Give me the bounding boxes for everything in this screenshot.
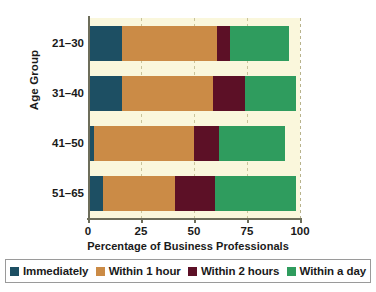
legend-label: Within 1 hour (109, 265, 181, 277)
x-axis-tick (194, 218, 196, 223)
x-tick-label-75: 75 (241, 225, 254, 237)
bar-segment (88, 76, 122, 111)
bar-segment (194, 126, 219, 161)
x-axis-tick (247, 218, 249, 223)
bar-segment (122, 76, 213, 111)
legend-item-within-2-hours[interactable]: Within 2 hours (188, 265, 279, 277)
y-tick-label-41-50: 41–50 (38, 137, 84, 149)
bar-segment (217, 26, 230, 61)
bar-segment (175, 176, 215, 211)
x-axis-tick (141, 218, 143, 223)
legend-item-within-1-hour[interactable]: Within 1 hour (96, 265, 181, 277)
bar-segment (230, 26, 289, 61)
bar-segment (215, 176, 296, 211)
y-axis-tick-labels: 21–3031–4041–5051–65 (38, 18, 84, 218)
legend-swatch-icon (96, 267, 105, 276)
x-tick-label-50: 50 (188, 225, 201, 237)
bar-31-40 (88, 76, 300, 111)
legend-label: Within a day (300, 265, 366, 277)
x-tick-label-25: 25 (135, 225, 148, 237)
plot-area (88, 18, 300, 218)
bar-41-50 (88, 126, 300, 161)
bar-segment (103, 176, 175, 211)
bar-segment (88, 176, 103, 211)
y-tick-label-31-40: 31–40 (38, 87, 84, 99)
x-tick-label-100: 100 (290, 225, 309, 237)
bar-51-65 (88, 176, 300, 211)
legend-item-within-a-day[interactable]: Within a day (287, 265, 366, 277)
bar-segment (213, 76, 245, 111)
bar-segment (245, 76, 296, 111)
x-tick-label-0: 0 (85, 225, 91, 237)
legend-label: Immediately (23, 265, 88, 277)
x-axis-tick (88, 218, 90, 223)
legend-swatch-icon (10, 267, 19, 276)
x-axis-tick (300, 218, 302, 223)
legend-label: Within 2 hours (201, 265, 279, 277)
y-axis-line (88, 16, 90, 220)
x-axis-title: Percentage of Business Professionals (0, 240, 376, 252)
bar-segment (219, 126, 285, 161)
bar-segment (122, 26, 217, 61)
stacked-bar-chart: Age Group 21–3031–4041–5051–65 025507510… (0, 0, 376, 292)
y-tick-label-21-30: 21–30 (38, 37, 84, 49)
chart-legend: ImmediatelyWithin 1 hourWithin 2 hoursWi… (5, 259, 371, 283)
gridline (300, 18, 301, 218)
bar-segment (94, 126, 194, 161)
y-tick-label-51-65: 51–65 (38, 187, 84, 199)
bar-21-30 (88, 26, 300, 61)
legend-item-immediately[interactable]: Immediately (10, 265, 88, 277)
legend-swatch-icon (287, 267, 296, 276)
bar-segment (88, 26, 122, 61)
legend-swatch-icon (188, 267, 197, 276)
